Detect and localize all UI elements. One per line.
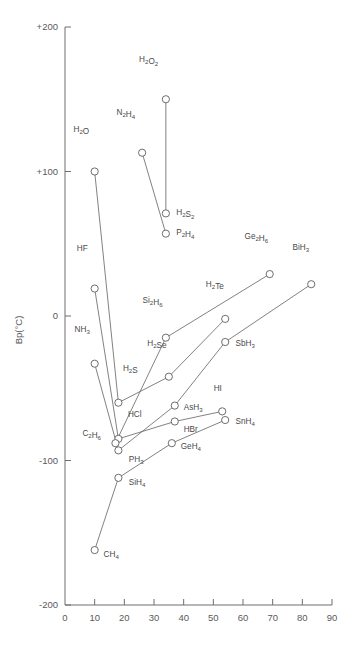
x-tick-label: 40 xyxy=(178,612,189,623)
data-point-label-HCl: HCl xyxy=(128,410,142,419)
data-point-CH4[interactable] xyxy=(91,546,98,553)
x-tick-label: 70 xyxy=(267,612,278,623)
x-tick-label: 60 xyxy=(238,612,249,623)
data-point-H2Te[interactable] xyxy=(222,315,229,322)
data-point-GeH4[interactable] xyxy=(168,440,175,447)
y-tick-label: -200 xyxy=(39,599,58,610)
data-point-label-H2O2: H2O2 xyxy=(139,55,159,67)
data-point-C2H6[interactable] xyxy=(112,440,119,447)
x-tick-label: 50 xyxy=(208,612,219,623)
data-point-label-Ge2H6: Ge2H6 xyxy=(245,232,269,244)
chart-canvas: +200+1000-100-200 0102030405060708090 H2… xyxy=(0,0,350,652)
data-point-HF[interactable] xyxy=(91,285,98,292)
data-point-label-H2S: H2S xyxy=(123,364,138,375)
data-point-label-SbH3: SbH3 xyxy=(236,339,256,349)
data-point-SiH4[interactable] xyxy=(115,474,122,481)
boiling-point-chart: +200+1000-100-200 0102030405060708090 H2… xyxy=(0,0,350,652)
data-point-AsH3[interactable] xyxy=(171,402,178,409)
data-point-label-H2O: H2O xyxy=(73,125,89,136)
data-point-HI[interactable] xyxy=(219,408,226,415)
x-tick-label: 0 xyxy=(62,612,67,623)
data-point-label-SiH4: SiH4 xyxy=(129,478,146,488)
data-point-label-NH3: NH3 xyxy=(75,325,91,335)
data-point-Ge2H6[interactable] xyxy=(266,270,273,277)
data-point-N2H4[interactable] xyxy=(139,149,146,156)
data-point-label-H2Se: H2Se xyxy=(147,339,167,350)
x-tick-label: 80 xyxy=(297,612,308,623)
data-point-H2O2[interactable] xyxy=(162,96,169,103)
data-point-PH3[interactable] xyxy=(115,447,122,454)
x-tick-label: 90 xyxy=(327,612,338,623)
data-point-HBr[interactable] xyxy=(171,418,178,425)
data-point-label-PH3: PH3 xyxy=(129,455,144,465)
y-tick-label: 0 xyxy=(53,310,58,321)
data-point-H2S[interactable] xyxy=(115,399,122,406)
y-tick-label: +100 xyxy=(37,166,58,177)
series-line-hydrazine-chain xyxy=(142,153,166,234)
data-point-label-P2H4: P2H4 xyxy=(176,228,195,240)
y-tick-label: -100 xyxy=(39,455,58,466)
data-point-label-Si2H6: Si2H6 xyxy=(143,296,164,308)
data-point-label-HI: HI xyxy=(214,384,222,393)
x-tick-group: 0102030405060708090 xyxy=(62,599,337,623)
x-tick-label: 20 xyxy=(119,612,130,623)
data-point-label-HF: HF xyxy=(77,244,88,253)
data-point-SnH4[interactable] xyxy=(222,416,229,423)
series-line-group17-hydrides xyxy=(95,289,223,439)
series-lines-group xyxy=(95,99,312,550)
data-point-label-GeH4: GeH4 xyxy=(181,442,202,452)
data-point-label-N2H4: N2H4 xyxy=(117,108,136,120)
data-point-P2H4[interactable] xyxy=(162,230,169,237)
data-point-label-SnH4: SnH4 xyxy=(236,417,256,427)
data-point-H2S2[interactable] xyxy=(162,210,169,217)
data-point-H2O[interactable] xyxy=(91,168,98,175)
data-point-NH3[interactable] xyxy=(91,360,98,367)
y-axis-title: Bp(°C) xyxy=(13,316,24,345)
data-point-label-H2Te: H2Te xyxy=(206,280,224,291)
x-tick-label: 30 xyxy=(149,612,160,623)
data-point-label-CH4: CH4 xyxy=(104,550,120,560)
data-markers-group xyxy=(91,96,315,554)
data-point-label-HBr: HBr xyxy=(184,425,198,434)
y-tick-label: +200 xyxy=(37,21,58,32)
data-point-H2Se[interactable] xyxy=(165,373,172,380)
data-point-label-AsH3: AsH3 xyxy=(184,403,203,413)
data-point-Si2H6[interactable] xyxy=(162,334,169,341)
x-tick-label: 10 xyxy=(89,612,100,623)
data-point-label-C2H6: C2H6 xyxy=(82,429,101,441)
data-point-label-H2S2: H2S2 xyxy=(176,208,195,220)
data-point-SbH3[interactable] xyxy=(222,338,229,345)
y-tick-group: +200+1000-100-200 xyxy=(37,21,71,610)
data-point-label-BiH3: BiH3 xyxy=(293,243,310,253)
data-point-BiH3[interactable] xyxy=(308,281,315,288)
